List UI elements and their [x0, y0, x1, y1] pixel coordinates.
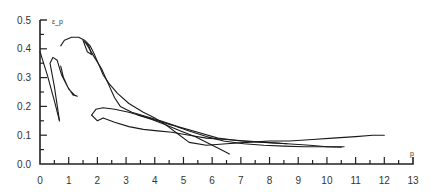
- x-tick-label: 9: [295, 175, 301, 186]
- y-tick-label: 0.2: [17, 101, 31, 112]
- x-tick-label: 8: [267, 175, 273, 186]
- x-tick-label: 12: [379, 175, 391, 186]
- series-curve-3: [61, 37, 385, 145]
- x-tick-label: 6: [209, 175, 215, 186]
- x-tick-label: 7: [238, 175, 244, 186]
- y-tick-label: 0.3: [17, 72, 31, 83]
- y-tick-label: 0.5: [17, 15, 31, 26]
- series-curve-2: [50, 57, 77, 120]
- data-curves: [40, 37, 384, 154]
- x-tick-label: 13: [407, 175, 419, 186]
- axes: [40, 20, 413, 164]
- x-tick-label: 3: [123, 175, 129, 186]
- x-tick-label: 10: [321, 175, 333, 186]
- y-tick-label: 0.1: [17, 130, 31, 141]
- y-axis-label: ε_p: [52, 18, 63, 26]
- x-tick-label: 11: [350, 175, 361, 186]
- y-tick-label: 0.4: [17, 43, 31, 54]
- axis-lines: [40, 20, 413, 164]
- x-tick-label: 1: [66, 175, 72, 186]
- x-tick-label: 5: [181, 175, 187, 186]
- x-tick-label: 0: [37, 175, 43, 186]
- series-curve-5: [86, 43, 344, 147]
- tick-labels: 0123456789101112130.00.10.20.30.40.5: [17, 15, 419, 187]
- x-tick-label: 4: [152, 175, 158, 186]
- x-tick-label: 2: [95, 175, 101, 186]
- y-tick-label: 0.0: [17, 159, 31, 170]
- x-axis-label: p: [410, 150, 414, 158]
- chart: 0123456789101112130.00.10.20.30.40.5 ε_p…: [0, 0, 433, 192]
- series-curve-1: [40, 52, 60, 121]
- series-curve-6: [92, 108, 342, 148]
